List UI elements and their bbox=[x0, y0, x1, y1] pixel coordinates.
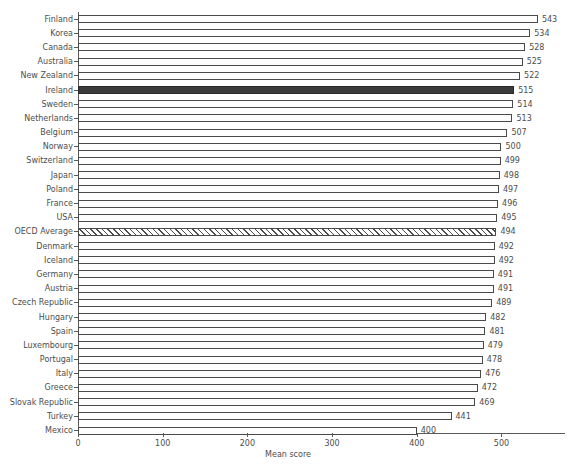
bar-container: 495 bbox=[78, 214, 517, 222]
category-label: Germany bbox=[0, 270, 73, 279]
x-axis-tick-label: 100 bbox=[155, 439, 170, 448]
category-label: Norway bbox=[0, 142, 73, 151]
bar bbox=[78, 313, 486, 321]
bar-value-label: 472 bbox=[482, 383, 497, 392]
bar-row: Turkey441 bbox=[0, 409, 576, 423]
category-label: Ireland bbox=[0, 86, 73, 95]
bar-container: 478 bbox=[78, 356, 502, 364]
bar-container: 507 bbox=[78, 129, 527, 137]
bar-container: 476 bbox=[78, 370, 500, 378]
bar-container: 543 bbox=[78, 15, 557, 23]
bar-row: Korea534 bbox=[0, 26, 576, 40]
bar-row: Canada528 bbox=[0, 40, 576, 54]
bar-rows: Finland543Korea534Canada528Australia525N… bbox=[0, 12, 576, 438]
bar bbox=[78, 398, 475, 406]
bar-row: Hungary482 bbox=[0, 310, 576, 324]
bar-value-label: 500 bbox=[505, 142, 520, 151]
bar-container: 472 bbox=[78, 384, 497, 392]
bar bbox=[78, 100, 513, 108]
bar-row: Slovak Republic469 bbox=[0, 395, 576, 409]
bar bbox=[78, 15, 538, 23]
bar-row: Netherlands513 bbox=[0, 111, 576, 125]
x-axis-tick bbox=[78, 433, 79, 437]
bar-value-label: 489 bbox=[496, 298, 511, 307]
bar-container: 492 bbox=[78, 256, 514, 264]
bar-container: 534 bbox=[78, 29, 550, 37]
bar-container: 522 bbox=[78, 72, 539, 80]
category-label: Czech Republic bbox=[0, 298, 73, 307]
x-axis-tick-label: 500 bbox=[494, 439, 509, 448]
category-label: Australia bbox=[0, 57, 73, 66]
bar-value-label: 491 bbox=[498, 270, 513, 279]
bar-value-label: 543 bbox=[542, 15, 557, 24]
category-label: Denmark bbox=[0, 242, 73, 251]
bar bbox=[78, 285, 494, 293]
category-label: OECD Average bbox=[0, 227, 73, 236]
bar bbox=[78, 214, 497, 222]
bar-container: 492 bbox=[78, 242, 514, 250]
bar-container: 496 bbox=[78, 200, 517, 208]
category-label: Spain bbox=[0, 327, 73, 336]
bar bbox=[78, 270, 494, 278]
bar-value-label: 495 bbox=[501, 213, 516, 222]
bar-value-label: 515 bbox=[518, 86, 533, 95]
category-label: Finland bbox=[0, 15, 73, 24]
x-axis-title: Mean score bbox=[0, 450, 576, 459]
bar bbox=[78, 384, 478, 392]
bar bbox=[78, 86, 514, 94]
bar bbox=[78, 327, 485, 335]
bar-value-label: 492 bbox=[499, 256, 514, 265]
bar-value-label: 491 bbox=[498, 284, 513, 293]
bar-container: 479 bbox=[78, 341, 503, 349]
x-axis-tick-label: 300 bbox=[324, 439, 339, 448]
x-axis-tick bbox=[501, 433, 502, 437]
bar-container: 498 bbox=[78, 171, 519, 179]
bar-value-label: 499 bbox=[505, 156, 520, 165]
bar-container: 514 bbox=[78, 100, 533, 108]
bar-container: 513 bbox=[78, 114, 532, 122]
x-axis-tick bbox=[163, 433, 164, 437]
bar-row: Spain481 bbox=[0, 324, 576, 338]
bar-row: Poland497 bbox=[0, 182, 576, 196]
bar-value-label: 534 bbox=[534, 29, 549, 38]
bar-row: Greece472 bbox=[0, 381, 576, 395]
bar-value-label: 492 bbox=[499, 242, 514, 251]
category-label: Belgium bbox=[0, 128, 73, 137]
bar bbox=[78, 171, 500, 179]
bar-row: Denmark492 bbox=[0, 239, 576, 253]
bar-row: Sweden514 bbox=[0, 97, 576, 111]
category-label: New Zealand bbox=[0, 71, 73, 80]
bar-row: Ireland515 bbox=[0, 83, 576, 97]
category-label: Netherlands bbox=[0, 114, 73, 123]
x-axis-tick-label: 200 bbox=[240, 439, 255, 448]
bar bbox=[78, 242, 495, 250]
category-label: Slovak Republic bbox=[0, 398, 73, 407]
bar-row: Japan498 bbox=[0, 168, 576, 182]
bar-row: Finland543 bbox=[0, 12, 576, 26]
bar-container: 499 bbox=[78, 157, 520, 165]
bar bbox=[78, 228, 496, 236]
bar-row: OECD Average494 bbox=[0, 225, 576, 239]
bar-container: 497 bbox=[78, 185, 518, 193]
bar-container: 528 bbox=[78, 43, 544, 51]
bar bbox=[78, 412, 452, 420]
bar-row: France496 bbox=[0, 196, 576, 210]
bar-row: Germany491 bbox=[0, 267, 576, 281]
x-axis-tick bbox=[247, 433, 248, 437]
category-label: Italy bbox=[0, 369, 73, 378]
bar-value-label: 507 bbox=[511, 128, 526, 137]
category-label: Poland bbox=[0, 185, 73, 194]
bar-row: Belgium507 bbox=[0, 126, 576, 140]
bar-container: 525 bbox=[78, 58, 542, 66]
bar-value-label: 476 bbox=[485, 369, 500, 378]
bar-value-label: 525 bbox=[527, 57, 542, 66]
bar bbox=[78, 200, 498, 208]
bar-row: Czech Republic489 bbox=[0, 296, 576, 310]
bar-container: 489 bbox=[78, 299, 511, 307]
bar-value-label: 469 bbox=[479, 398, 494, 407]
category-label: Austria bbox=[0, 284, 73, 293]
category-label: France bbox=[0, 199, 73, 208]
bar-row: USA495 bbox=[0, 211, 576, 225]
category-label: Portugal bbox=[0, 355, 73, 364]
bar bbox=[78, 43, 525, 51]
